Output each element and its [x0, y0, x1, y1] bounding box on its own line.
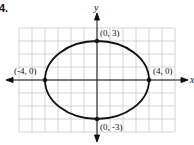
point-marker — [147, 78, 151, 82]
point-label: (0, 3) — [100, 28, 120, 38]
y-axis-label: y — [93, 2, 99, 13]
point-marker — [95, 117, 99, 121]
point-marker — [43, 78, 47, 82]
axes — [6, 13, 188, 142]
point-label: (0, -3) — [100, 122, 123, 132]
ellipse-graph: xy(0, 3)(-4, 0)(4, 0)(0, -3) — [0, 0, 194, 145]
point-marker — [95, 39, 99, 43]
point-label: (4, 0) — [153, 66, 173, 76]
x-axis-label: x — [189, 74, 194, 85]
point-label: (-4, 0) — [14, 66, 37, 76]
